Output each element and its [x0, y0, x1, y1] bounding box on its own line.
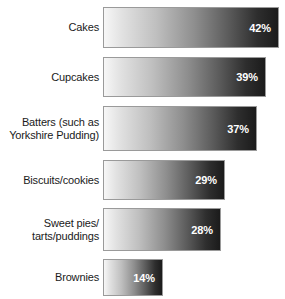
bar: 28% — [103, 208, 221, 251]
bar-track: 28% — [103, 208, 285, 251]
category-label: Cupcakes — [0, 71, 103, 84]
bar-value-label: 14% — [133, 272, 162, 284]
bar-value-label: 39% — [236, 71, 265, 83]
bar-row: Brownies14% — [0, 259, 285, 296]
bar-track: 37% — [103, 106, 285, 151]
bar-value-label: 42% — [249, 22, 278, 34]
bar-rows-container: Cakes42%Cupcakes39%Batters (such as York… — [0, 0, 285, 299]
bar-row: Biscuits/cookies29% — [0, 160, 285, 200]
category-label: Sweet pies/ tarts/puddings — [0, 217, 103, 243]
bar-track: 42% — [103, 7, 285, 48]
category-label: Batters (such as Yorkshire Pudding) — [0, 116, 103, 142]
bar: 14% — [103, 259, 163, 296]
bar: 37% — [103, 106, 257, 151]
category-label: Brownies — [0, 271, 103, 284]
bar-chart: Cakes42%Cupcakes39%Batters (such as York… — [0, 0, 285, 299]
bar: 29% — [103, 160, 225, 200]
bar-track: 14% — [103, 259, 285, 296]
bar-value-label: 37% — [227, 123, 256, 135]
category-label: Cakes — [0, 21, 103, 34]
bar: 42% — [103, 7, 279, 48]
bar-track: 39% — [103, 57, 285, 97]
category-label: Biscuits/cookies — [0, 174, 103, 187]
bar-row: Batters (such as Yorkshire Pudding)37% — [0, 106, 285, 151]
bar-row: Cupcakes39% — [0, 57, 285, 97]
bar-row: Sweet pies/ tarts/puddings28% — [0, 208, 285, 251]
bar-value-label: 28% — [191, 224, 220, 236]
bar: 39% — [103, 57, 266, 97]
bar-row: Cakes42% — [0, 7, 285, 48]
bar-track: 29% — [103, 160, 285, 200]
bar-value-label: 29% — [195, 174, 224, 186]
